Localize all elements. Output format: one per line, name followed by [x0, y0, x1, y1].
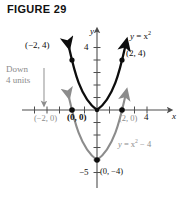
point-dot-2-0 [119, 107, 125, 113]
point-label-0-neg4: (0, −4) [100, 167, 123, 176]
point-dot-neg2-4 [69, 57, 74, 62]
y-tick-label-4: 4 [84, 43, 89, 52]
point-label-2-0: (2, 0) [119, 114, 137, 123]
point-label-neg2-0: (−2, 0) [34, 114, 57, 123]
curve-black-label-eq: = x [134, 31, 148, 41]
curve-gray-label-eq: = x [122, 139, 135, 149]
point-label-2-4: (2, 4) [126, 49, 146, 58]
y-axis-label: y [90, 27, 94, 36]
curve-label-y-equals-x-squared: y = x2 [130, 32, 151, 41]
point-label-neg2-4: (−2, 4) [25, 41, 50, 50]
annotation-down-line2: 4 units [6, 76, 30, 85]
figure-container: FIGURE 29 [0, 0, 187, 200]
curve-gray-label-tail: − 4 [138, 139, 151, 149]
x-tick-label-4: 4 [144, 113, 149, 122]
curve-label-y-equals-x-squared-minus-4: y = x2 − 4 [118, 140, 151, 149]
y-tick-label-neg5: −5 [79, 168, 89, 177]
point-dot-0-0 [95, 108, 99, 112]
x-axis-label: x [172, 112, 176, 121]
curve-black-label-exponent: 2 [148, 30, 151, 36]
annotation-down-line1: Down [6, 65, 28, 74]
point-label-0-0: (0, 0) [67, 113, 87, 122]
point-dot-0-neg4 [94, 157, 100, 163]
point-dot-2-4 [119, 57, 124, 62]
